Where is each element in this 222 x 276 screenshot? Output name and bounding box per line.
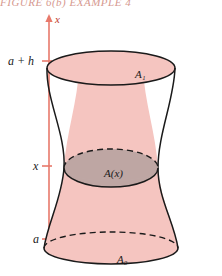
tick-label-x: x [32, 159, 39, 173]
x-axis-arrowhead [45, 14, 52, 22]
label-a1: A₁ [134, 68, 146, 80]
x-axis-group: x a + h x a [8, 13, 60, 248]
figure-container: FIGURE 6(b) EXAMPLE 4 x a + h x a [0, 0, 222, 276]
label-a-of-x: A(x) [103, 167, 123, 180]
tick-label-a-plus-h: a + h [8, 54, 34, 68]
x-axis-name: x [54, 13, 60, 25]
solid-body-group [44, 51, 178, 264]
tick-label-a: a [33, 232, 39, 246]
label-a0: A₀ [116, 253, 128, 265]
solid-of-revolution-diagram: x a + h x a [0, 0, 222, 276]
